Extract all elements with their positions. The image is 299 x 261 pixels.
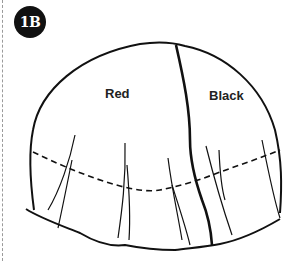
dome-outline [30,43,281,213]
skirt-pattern-drawing [0,0,299,261]
fold-line [168,158,182,240]
fold-line [262,140,280,218]
fold-line [127,165,130,240]
fold-line [219,150,225,200]
hem-outline [26,209,280,250]
region-label-black: Black [209,88,244,103]
fold-line [48,135,75,210]
region-label-red: Red [105,86,130,101]
fold-line [118,143,125,238]
